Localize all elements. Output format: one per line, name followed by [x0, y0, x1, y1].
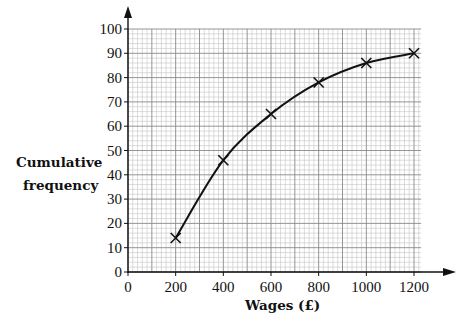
x-axis-arrow-icon	[443, 268, 456, 276]
cumulative-frequency-chart: 0102030405060708090100 02004006008001000…	[0, 0, 471, 332]
y-tick-label: 100	[100, 21, 123, 37]
x-tick-label: 200	[164, 279, 187, 295]
y-tick-label: 10	[107, 240, 122, 256]
y-axis-title-line1: Cumulative	[16, 154, 102, 170]
y-tick-label: 20	[107, 215, 122, 231]
y-tick-label: 40	[107, 167, 122, 183]
x-tick-label: 400	[212, 279, 235, 295]
y-tick-label: 90	[107, 45, 122, 61]
x-tick-label: 600	[260, 279, 283, 295]
y-tick-label: 80	[107, 70, 122, 86]
y-tick-label: 0	[115, 264, 123, 280]
y-tick-label: 50	[107, 143, 122, 159]
x-tick-label: 1200	[399, 279, 429, 295]
x-axis-title: Wages (£)	[244, 297, 320, 313]
y-tick-label: 70	[107, 94, 122, 110]
x-axis-ticks: 020040060080010001200	[124, 272, 429, 295]
x-tick-label: 0	[124, 279, 132, 295]
y-axis-ticks: 0102030405060708090100	[100, 21, 129, 280]
x-tick-label: 1000	[351, 279, 381, 295]
grid-major	[128, 29, 421, 272]
y-tick-label: 30	[107, 191, 122, 207]
y-axis-title-line2: frequency	[23, 177, 99, 193]
y-axis-arrow-icon	[124, 6, 132, 18]
y-tick-label: 60	[107, 118, 122, 134]
x-tick-label: 800	[307, 279, 330, 295]
